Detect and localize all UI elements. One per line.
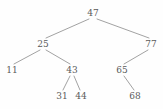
tree-edge (14, 50, 40, 64)
edges-group (14, 19, 149, 90)
tree-node-68: 68 (129, 92, 140, 101)
tree-edge (63, 76, 70, 90)
tree-edge (124, 76, 134, 90)
tree-edge (97, 19, 149, 38)
tree-edge (124, 50, 148, 64)
tree-node-43: 43 (66, 66, 77, 75)
tree-edge (46, 50, 70, 64)
tree-edge (74, 76, 80, 90)
binary-tree-diagram: 472577114365314468 (0, 0, 163, 109)
tree-node-25: 25 (37, 40, 48, 49)
tree-node-31: 31 (56, 92, 67, 101)
tree-node-11: 11 (6, 66, 17, 75)
tree-node-77: 77 (145, 40, 156, 49)
tree-edge (46, 19, 89, 38)
tree-node-65: 65 (116, 66, 127, 75)
tree-node-47: 47 (87, 9, 98, 18)
tree-node-44: 44 (75, 92, 86, 101)
